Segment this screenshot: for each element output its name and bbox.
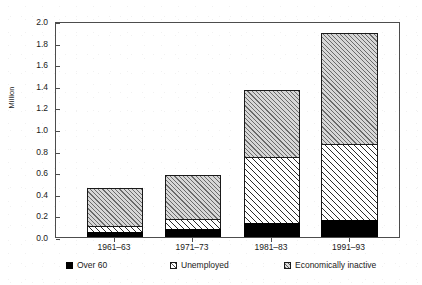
y-axis-tick-label: 1.4 (36, 82, 48, 92)
y-axis-tick-label: 0.8 (36, 147, 48, 157)
y-axis-tick-mark (56, 153, 60, 154)
y-axis-title: Million (7, 68, 16, 128)
legend-swatch-icon (66, 262, 73, 269)
y-axis-tick-label: 0.4 (36, 190, 48, 200)
y-axis-tick-label: 0.2 (36, 211, 48, 221)
bar-segment-unemployed (165, 219, 221, 230)
y-axis-tick-mark (56, 131, 60, 132)
x-axis-tick-label: 1961–63 (84, 242, 144, 252)
y-axis-tick-label: 1.8 (36, 39, 48, 49)
chart-screenshot: Million 0.00.20.40.60.81.01.21.41.61.82.… (0, 0, 422, 285)
bar-1961-63 (87, 188, 143, 237)
y-axis-tick-label: 2.0 (36, 17, 48, 27)
legend-item-economically-inactive: Economically inactive (284, 261, 376, 270)
legend-item-over-60: Over 60 (66, 261, 107, 270)
y-axis-tick-label: 1.2 (36, 103, 48, 113)
bar-segment-over-60 (244, 223, 300, 237)
bar-segment-unemployed (321, 144, 378, 220)
y-axis-tick-mark (56, 45, 60, 46)
y-axis-tick-mark (56, 239, 60, 240)
bar-segment-economically-inactive (165, 175, 221, 218)
bar-segment-unemployed (244, 157, 300, 223)
legend-swatch-icon (284, 262, 291, 269)
bar-1971-73 (165, 175, 221, 237)
y-axis-tick-mark (56, 23, 60, 24)
chart-legend: Over 60UnemployedEconomically inactive (66, 261, 396, 275)
legend-item-unemployed: Unemployed (170, 261, 229, 270)
y-axis-tick-mark (56, 109, 60, 110)
legend-label: Unemployed (181, 261, 229, 270)
y-axis-tick-mark (56, 66, 60, 67)
legend-label: Over 60 (77, 261, 107, 270)
y-axis-tick-label: 1.0 (36, 125, 48, 135)
bar-segment-economically-inactive (244, 90, 300, 157)
y-axis-tick-label: 0.0 (36, 233, 48, 243)
y-axis-tick-label: 0.6 (36, 168, 48, 178)
bar-1991-93 (321, 33, 378, 237)
plot-area: 0.00.20.40.60.81.01.21.41.61.82.0 (55, 22, 400, 238)
x-axis-tick-label: 1971–73 (162, 242, 222, 252)
bar-segment-over-60 (165, 229, 221, 237)
y-axis-tick-mark (56, 174, 60, 175)
y-axis-tick-mark (56, 88, 60, 89)
x-axis-tick-label: 1991–93 (319, 242, 379, 252)
bar-segment-over-60 (87, 232, 143, 237)
x-axis-tick-label: 1981–83 (241, 242, 301, 252)
bar-segment-over-60 (321, 220, 378, 237)
bar-segment-economically-inactive (87, 188, 143, 226)
y-axis-tick-mark (56, 196, 60, 197)
bar-1981-83 (244, 90, 300, 237)
y-axis-tick-mark (56, 217, 60, 218)
legend-swatch-icon (170, 262, 177, 269)
y-axis-tick-label: 1.6 (36, 60, 48, 70)
bar-segment-unemployed (87, 226, 143, 231)
legend-label: Economically inactive (295, 261, 376, 270)
bar-segment-economically-inactive (321, 33, 378, 144)
